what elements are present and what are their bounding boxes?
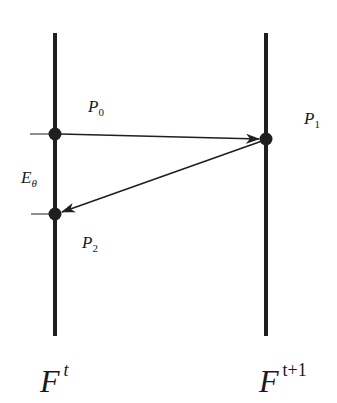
point-p1 (260, 133, 273, 146)
label-p1: P1 (303, 109, 320, 130)
diagram-canvas: P0 P1 P2 Eθ Ft Ft+1 (0, 0, 337, 403)
point-p2 (49, 208, 62, 221)
label-frame-t: Ft (39, 360, 70, 399)
label-frame-t1: Ft+1 (258, 360, 307, 399)
label-p0: P0 (87, 97, 104, 118)
arrow-p1-to-p2 (62, 141, 262, 212)
point-p0 (49, 128, 62, 141)
arrow-p0-to-p1 (60, 134, 259, 139)
label-p2: P2 (81, 233, 98, 254)
label-e-theta: Eθ (20, 168, 37, 189)
